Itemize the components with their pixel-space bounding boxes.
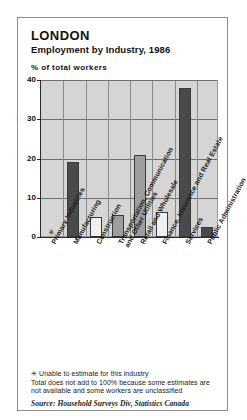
y-tick-label-40: 40: [18, 76, 36, 84]
y-tick-label-20: 20: [18, 155, 36, 163]
y-tick-mark: [37, 80, 40, 81]
asterisk-icon: ✳: [31, 370, 37, 379]
category-divider: [152, 81, 153, 236]
y-tick-mark: [37, 237, 40, 238]
category-divider: [108, 81, 109, 236]
chart-card: LONDON Employment by Industry, 1986 % of…: [17, 17, 228, 411]
chart-plot-area: 010203040 ✳ Primary IndustriesManufactur…: [18, 18, 229, 412]
category-divider: [130, 81, 131, 236]
category-divider: [197, 81, 198, 236]
footnote-asterisk: ✳ Unable to estimate for this industry: [31, 370, 221, 379]
gridline-40: [41, 80, 217, 81]
footnotes: ✳ Unable to estimate for this industry T…: [31, 370, 221, 408]
footnote-asterisk-text: Unable to estimate for this industry: [39, 370, 149, 379]
y-tick-mark: [37, 159, 40, 160]
y-tick-label-10: 10: [18, 194, 36, 202]
y-tick-label-30: 30: [18, 115, 36, 123]
category-divider: [63, 81, 64, 236]
footnote-total: Total does not add to 100% because some …: [31, 379, 221, 396]
y-tick-mark: [37, 119, 40, 120]
y-tick-mark: [37, 198, 40, 199]
y-axis-line: [40, 80, 41, 238]
source-line: Source: Household Surveys Div, Statistic…: [31, 399, 221, 408]
y-tick-label-0: 0: [18, 233, 36, 241]
